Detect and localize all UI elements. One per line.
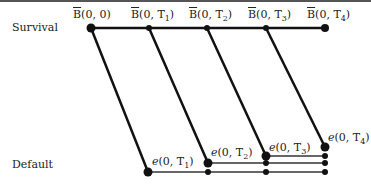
node-label-b-0-t4: B(0, T4) [307, 8, 350, 23]
node-label-b-0-t3: B(0, T3) [248, 8, 291, 23]
node-label-b-0-t1: B(0, T1) [131, 8, 174, 23]
node-label-e-0-t4: e(0, T4) [328, 131, 370, 146]
node-label-e-0-t2: e(0, T2) [211, 146, 253, 161]
node-label-e-0-t3: e(0, T3) [269, 141, 311, 156]
node-label-e-0-t1: e(0, T1) [152, 155, 194, 170]
row-label-survival: Survival [12, 21, 58, 34]
node-label-b-0-t2: B(0, T2) [189, 8, 232, 23]
node-label-b-0-0: B(0, 0) [73, 8, 111, 21]
row-label-default: Default [12, 158, 53, 171]
